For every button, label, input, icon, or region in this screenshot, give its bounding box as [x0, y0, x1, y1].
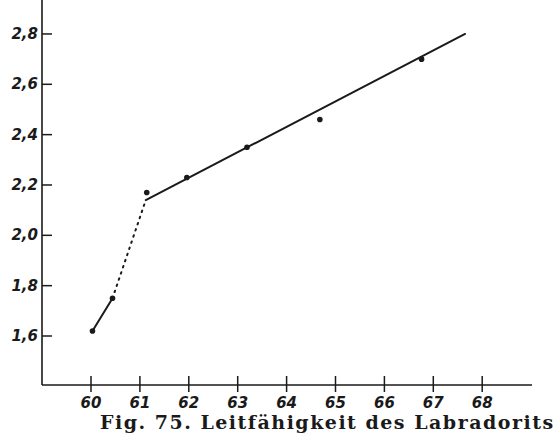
x-tick-label: 66 — [374, 394, 395, 412]
x-ticks: 606162636465666768 — [81, 376, 493, 412]
y-tick-label: 2,8 — [11, 25, 38, 43]
x-tick-label: 64 — [276, 394, 297, 412]
data-point — [317, 117, 323, 123]
data-points — [90, 56, 425, 333]
figure-caption: Fig. 75. Leitfähigkeit des Labradorits — [100, 411, 555, 433]
y-ticks: 1,61,82,02,22,42,62,8 — [11, 25, 52, 345]
y-tick-label: 2,4 — [11, 126, 38, 144]
y-tick-label: 1,6 — [11, 327, 38, 345]
data-point — [110, 295, 116, 301]
series-lines — [92, 34, 465, 331]
dotted-segment — [113, 200, 146, 298]
data-point — [184, 175, 190, 181]
y-tick-label: 2,0 — [11, 226, 38, 244]
data-point — [90, 328, 96, 334]
x-tick-label: 63 — [227, 394, 248, 412]
x-tick-label: 68 — [472, 394, 493, 412]
data-point — [244, 144, 250, 150]
solid-segment — [146, 34, 465, 200]
x-tick-label: 61 — [129, 394, 150, 412]
solid-segment — [92, 298, 112, 331]
x-tick-label: 62 — [178, 394, 199, 412]
y-tick-label: 1,8 — [11, 277, 38, 295]
y-tick-label: 2,6 — [11, 75, 38, 93]
x-tick-label: 67 — [423, 394, 444, 412]
x-tick-label: 60 — [81, 394, 102, 412]
y-tick-label: 2,2 — [11, 176, 38, 194]
data-point — [144, 190, 150, 196]
x-tick-label: 65 — [325, 394, 346, 412]
data-point — [419, 56, 425, 62]
